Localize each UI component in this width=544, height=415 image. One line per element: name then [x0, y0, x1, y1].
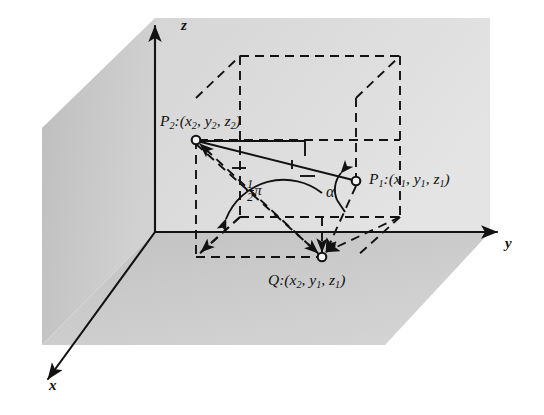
q-letter: Q	[268, 271, 279, 288]
p1-comma-1: ,	[406, 170, 414, 187]
half-fraction: 1 2	[246, 178, 254, 205]
p1-x: x	[394, 170, 401, 187]
figure-canvas	[0, 0, 544, 415]
z-axis-label: z	[181, 18, 187, 33]
q-open-paren: :(	[279, 271, 289, 288]
fraction-denominator: 2	[246, 191, 254, 204]
p1-open-paren: :(	[384, 170, 394, 187]
x-axis-label: x	[49, 378, 57, 393]
p1-close-paren: )	[445, 170, 450, 187]
point-label-P2: P2:(x2, y2, z2)	[160, 113, 241, 131]
q-comma-2: ,	[321, 271, 329, 288]
point-marker-P2[interactable]	[192, 136, 201, 145]
p1-y: y	[414, 170, 421, 187]
fraction-numerator: 1	[246, 178, 254, 192]
y-axis-label: y	[505, 236, 512, 251]
p2-comma-1: ,	[197, 112, 205, 129]
q-close-paren: )	[340, 271, 345, 288]
point-label-Q: Q:(x2, y1, z1)	[268, 272, 345, 290]
p2-open-paren: :(	[175, 112, 185, 129]
coordinate-figure: z y x P2:(x2, y2, z2) P1:(x1, y1, z1) Q:…	[0, 0, 544, 415]
angle-label-alpha: α	[326, 184, 334, 200]
p2-close-paren: )	[236, 112, 241, 129]
pi-symbol: π	[254, 182, 262, 198]
angle-label-half-pi: 1 2 π	[246, 178, 262, 205]
point-marker-P1[interactable]	[352, 177, 361, 186]
point-label-P1: P1:(x1, y1, z1)	[369, 171, 450, 189]
p2-x: x	[185, 112, 192, 129]
point-marker-Q[interactable]	[318, 253, 327, 262]
p2-y: y	[205, 112, 212, 129]
